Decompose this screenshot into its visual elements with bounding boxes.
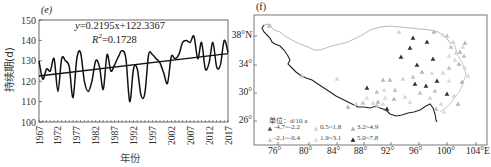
legend-entry-label: 1.9~3.1 xyxy=(320,134,341,142)
map-x-tick-label: 100° xyxy=(437,146,455,156)
trend-equation: y=0.2195x+122.3367 xyxy=(75,20,165,31)
svg-text:100: 100 xyxy=(21,117,36,128)
map-panel: (f) 38°N34°30°26° 76°80°84°88°92°96°100°… xyxy=(240,0,491,167)
map-x-tick-label: 88° xyxy=(354,146,367,156)
legend-entry-label: 0.5~1.8 xyxy=(320,123,341,131)
y-axis-title: 持续期(d) xyxy=(1,40,16,100)
legend-entry-label: 5.0~7.8 xyxy=(357,134,378,142)
map-y-tick-label: 30° xyxy=(239,87,252,97)
svg-text:120: 120 xyxy=(21,76,36,87)
svg-text:2007: 2007 xyxy=(186,126,196,145)
svg-text:130: 130 xyxy=(21,55,36,66)
map-y-tick-label: 26° xyxy=(239,115,252,125)
map-x-tick-label: 84° xyxy=(327,146,340,156)
map-x-tick-label: 96° xyxy=(409,146,422,156)
map-y-tick-label: 34° xyxy=(239,59,252,69)
panel-label-e: (e) xyxy=(41,4,52,15)
svg-text:2002: 2002 xyxy=(167,126,177,145)
svg-text:2017: 2017 xyxy=(224,126,234,145)
map-y-tick-label: 38°N xyxy=(232,30,252,40)
svg-text:110: 110 xyxy=(21,96,36,107)
svg-text:1992: 1992 xyxy=(129,126,139,145)
svg-text:1967: 1967 xyxy=(35,126,45,145)
legend-entry-label: -4.7~-2.2 xyxy=(274,123,300,131)
svg-text:1997: 1997 xyxy=(148,126,158,145)
map-x-tick-label: 76° xyxy=(268,146,281,156)
svg-text:150: 150 xyxy=(21,15,36,26)
svg-text:1982: 1982 xyxy=(91,126,101,145)
svg-text:1972: 1972 xyxy=(53,126,63,145)
svg-text:140: 140 xyxy=(21,35,36,46)
line-chart-panel: 1001101201301401501967197219771982198719… xyxy=(0,0,240,167)
map-x-tick-label: 80° xyxy=(299,146,312,156)
legend-entry-label: -2.1~-0.4 xyxy=(274,134,300,142)
panel-label-f: (f) xyxy=(256,1,266,12)
map-x-tick-label: 92° xyxy=(381,146,394,156)
x-axis-title: 年份 xyxy=(120,150,140,165)
r-squared: R2=0.1728 xyxy=(92,32,137,45)
svg-text:1977: 1977 xyxy=(72,126,82,145)
legend-entry-label: 3.2~4.9 xyxy=(357,123,378,131)
svg-text:2012: 2012 xyxy=(205,126,215,145)
map-x-tick-label: 104°E xyxy=(466,146,490,156)
svg-text:1987: 1987 xyxy=(110,126,120,145)
